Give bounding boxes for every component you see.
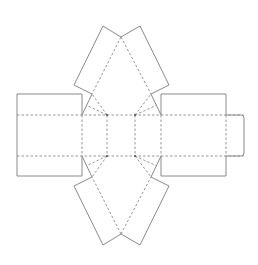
top-left-flap: [74, 26, 121, 115]
inner-vertices: [106, 114, 136, 157]
vertex-node: [134, 155, 136, 157]
gusset-fold-lines: [86, 94, 157, 177]
vertex-node: [134, 114, 136, 116]
bottom-right-flap: [121, 156, 169, 245]
vertex-node: [106, 155, 108, 157]
right-panel: [161, 94, 226, 176]
horizontal-fold-lines: [17, 115, 244, 156]
vertex-node: [106, 114, 108, 116]
left-panel: [17, 94, 82, 176]
vertical-fold-lines: [82, 115, 226, 156]
bottom-left-flap: [74, 156, 121, 245]
box-net-diagram: [0, 0, 258, 265]
top-right-flap: [121, 26, 169, 115]
tuck-tab: [226, 115, 244, 156]
